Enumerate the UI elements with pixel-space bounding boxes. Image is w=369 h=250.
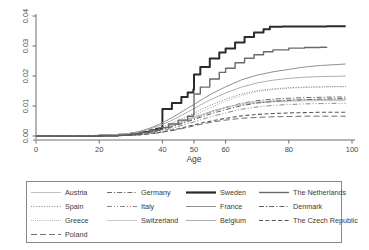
y-tick-label: 0.04 xyxy=(21,9,30,24)
legend-line-swatch-icon xyxy=(186,188,216,197)
y-tick-label: 0.00 xyxy=(21,129,30,144)
x-tick-label: 40 xyxy=(158,145,166,154)
legend-label: Denmark xyxy=(293,202,322,211)
legend-item-germany: Germany xyxy=(107,186,171,199)
legend-item-italy: Italy xyxy=(107,200,154,213)
legend-item-spain: Spain xyxy=(31,200,83,213)
legend-item-switzerland: Switzerland xyxy=(107,214,178,227)
legend-item-the-netherlands: The Netherlands xyxy=(259,186,346,199)
series-line-greece xyxy=(36,87,346,136)
y-tick-label: 0.03 xyxy=(21,39,30,54)
legend-grid: AustriaSpainGreecePolandGermanyItalySwit… xyxy=(31,186,339,240)
legend-label: Italy xyxy=(141,202,154,211)
axis-labels: 0.000.010.020.030.0402040506080100Age xyxy=(21,9,358,164)
line-chart-svg: 0.000.010.020.030.0402040506080100Age xyxy=(0,0,369,178)
plot-area: 0.000.010.020.030.0402040506080100Age xyxy=(0,0,369,178)
legend-item-austria: Austria xyxy=(31,186,87,199)
legend: AustriaSpainGreecePolandGermanyItalySwit… xyxy=(26,181,342,243)
legend-item-belgium: Belgium xyxy=(186,214,246,227)
legend-label: Switzerland xyxy=(141,216,178,225)
legend-line-swatch-icon xyxy=(259,202,289,211)
x-tick-label: 60 xyxy=(221,145,229,154)
legend-label: Austria xyxy=(65,188,87,197)
y-tick-label: 0.02 xyxy=(21,69,30,84)
legend-label: The Netherlands xyxy=(293,188,346,197)
legend-label: Belgium xyxy=(220,216,246,225)
x-tick-label: 50 xyxy=(190,145,198,154)
legend-label: Spain xyxy=(65,202,83,211)
legend-item-france: France xyxy=(186,200,242,213)
legend-item-denmark: Denmark xyxy=(259,200,322,213)
chart-figure: 0.000.010.020.030.0402040506080100Age Au… xyxy=(0,0,369,250)
legend-line-swatch-icon xyxy=(186,216,216,225)
legend-item-sweden: Sweden xyxy=(186,186,246,199)
legend-line-swatch-icon xyxy=(31,216,61,225)
legend-line-swatch-icon xyxy=(107,188,137,197)
legend-label: Sweden xyxy=(220,188,246,197)
legend-line-swatch-icon xyxy=(31,230,61,239)
legend-line-swatch-icon xyxy=(107,216,137,225)
legend-line-swatch-icon xyxy=(259,188,289,197)
x-axis-title: Age xyxy=(186,154,201,164)
legend-label: Germany xyxy=(141,188,171,197)
x-tick-label: 100 xyxy=(346,145,359,154)
legend-line-swatch-icon xyxy=(186,202,216,211)
x-tick-label: 0 xyxy=(34,145,38,154)
y-tick-label: 0.01 xyxy=(21,99,30,114)
legend-label: Greece xyxy=(65,216,89,225)
x-tick-label: 80 xyxy=(285,145,293,154)
legend-label: The Czech Republic xyxy=(293,216,358,225)
legend-line-swatch-icon xyxy=(259,216,289,225)
legend-line-swatch-icon xyxy=(107,202,137,211)
legend-item-poland: Poland xyxy=(31,228,87,241)
series-line-spain xyxy=(36,87,346,137)
legend-label: Poland xyxy=(65,230,87,239)
legend-item-greece: Greece xyxy=(31,214,89,227)
legend-item-the-czech-republic: The Czech Republic xyxy=(259,214,358,227)
legend-line-swatch-icon xyxy=(31,188,61,197)
legend-label: France xyxy=(220,202,242,211)
series-layer xyxy=(36,26,346,136)
x-tick-label: 20 xyxy=(95,145,103,154)
legend-line-swatch-icon xyxy=(31,202,61,211)
